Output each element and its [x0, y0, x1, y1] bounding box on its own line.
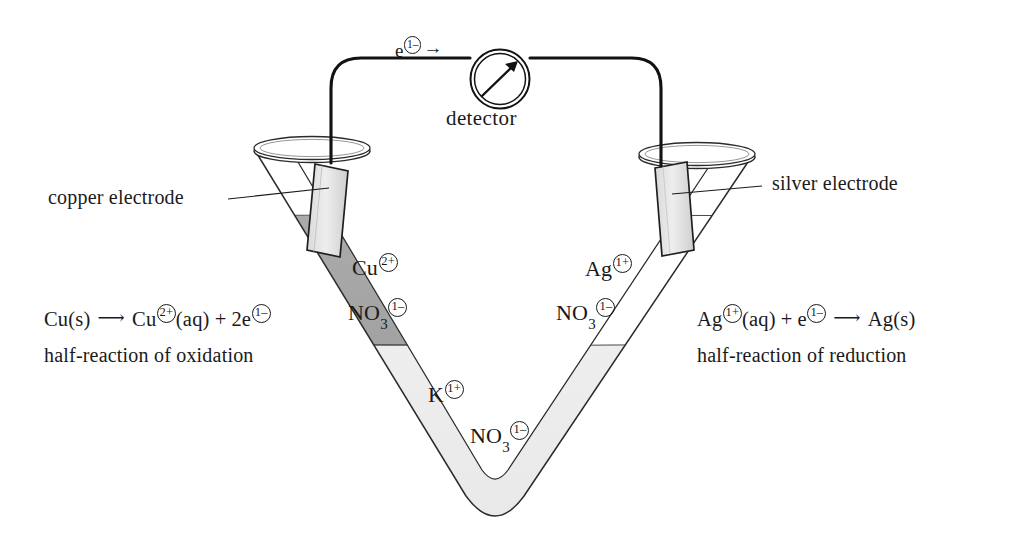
ion-label-k: K1+ — [428, 382, 464, 406]
ion-symbol: Cu — [352, 255, 378, 280]
eq-electron-charge: 1– — [807, 304, 826, 323]
ion-label-cu: Cu2+ — [352, 255, 398, 279]
solution-fills — [200, 216, 850, 551]
eq-product-state: (aq) — [176, 308, 210, 330]
electron-flow-arrow: → — [421, 38, 444, 57]
eq-electrons-charge: 1– — [252, 304, 271, 323]
electron-charge: 1– — [404, 36, 422, 54]
ion-symbol: NO — [556, 300, 588, 325]
eq-arrow: ⟶ — [826, 308, 867, 327]
eq-product: Ag(s) — [868, 308, 916, 330]
eq-product-charge: 2+ — [157, 304, 176, 323]
eq-reactant-symbol: Ag — [697, 308, 722, 330]
ion-label-no3-right: NO31– — [556, 300, 615, 329]
copper-electrode-label: copper electrode — [48, 187, 184, 207]
ion-label-no3-bottom: NO31– — [470, 423, 529, 452]
ion-charge: 1– — [388, 298, 407, 317]
cell-artwork — [0, 0, 1011, 551]
left-half-reaction-equation: Cu(s)⟶Cu2+(aq)+2e1– — [44, 306, 271, 329]
diagram-canvas: e1–→ detector copper electrode silver el… — [0, 0, 1011, 551]
ion-charge: 2+ — [379, 253, 398, 272]
ion-charge: 1– — [596, 298, 615, 317]
detector-meter[interactable] — [471, 50, 530, 109]
ion-charge: 1+ — [445, 380, 464, 399]
ion-charge: 1– — [510, 421, 529, 440]
right-half-reaction-caption: half-reaction of reduction — [697, 345, 907, 365]
ion-symbol: Ag — [585, 256, 612, 281]
eq-plus: + — [210, 308, 232, 330]
silver-electrode-label: silver electrode — [772, 173, 898, 193]
eq-product-symbol: Cu — [132, 308, 156, 330]
ion-symbol: NO — [348, 300, 380, 325]
ion-label-ag: Ag1+ — [585, 256, 632, 280]
left-half-reaction-caption: half-reaction of oxidation — [44, 345, 254, 365]
detector-label: detector — [446, 108, 517, 129]
ion-subscript: 3 — [380, 316, 388, 332]
ion-subscript: 3 — [502, 439, 510, 455]
right-tube-rim — [639, 143, 755, 169]
eq-electron: e — [798, 308, 807, 330]
eq-reactant-charge: 1+ — [723, 304, 742, 323]
eq-reactant: Cu(s) — [44, 308, 91, 330]
ion-charge: 1+ — [613, 254, 632, 273]
eq-electrons: 2e — [231, 308, 251, 330]
eq-reactant-state: (aq) — [742, 308, 776, 330]
eq-plus: + — [776, 308, 798, 330]
left-tube-rim — [254, 137, 370, 163]
copper-electrode[interactable] — [307, 164, 348, 257]
eq-arrow: ⟶ — [91, 308, 132, 327]
electron-symbol: e — [395, 40, 403, 61]
electron-flow-label: e1–→ — [395, 38, 444, 60]
silver-electrode[interactable] — [655, 162, 694, 256]
ion-symbol: NO — [470, 423, 502, 448]
right-half-reaction-equation: Ag1+(aq)+e1–⟶Ag(s) — [697, 306, 916, 329]
ion-subscript: 3 — [588, 316, 596, 332]
ion-symbol: K — [428, 382, 444, 407]
ion-label-no3-left: NO31– — [348, 300, 407, 329]
